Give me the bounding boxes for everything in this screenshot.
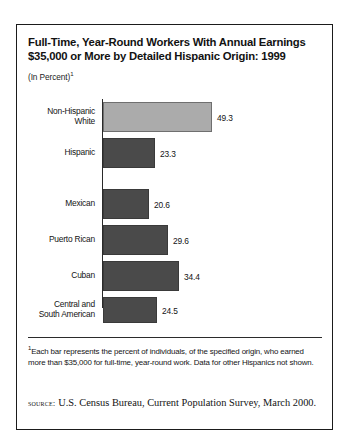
bar-row: Central and South American 24.5 [17,297,332,323]
bar-category-label: Cuban [17,271,95,281]
bar-value-label: 34.4 [184,272,200,282]
bar-chart-plot-area: Non-Hispanic White 49.3 Hispanic 23.3 Me… [17,99,332,311]
bar-row: Non-Hispanic White 49.3 [17,102,332,132]
footnote-divider [28,337,322,338]
footnote: 1Each bar represents the percent of indi… [28,347,318,368]
bar-puerto-rican [103,225,168,255]
footnote-text: Each bar represents the percent of indiv… [28,347,313,367]
source-label: source: [28,398,56,408]
bar-value-label: 23.3 [160,149,176,159]
bar-category-label-line1: Hispanic [64,147,95,157]
bar-row: Puerto Rican 29.6 [17,225,332,255]
bar-hispanic [103,138,155,168]
bar-row: Hispanic 23.3 [17,138,332,168]
page-title: Full-Time, Year-Round Workers With Annua… [28,35,322,63]
bar-category-label: Hispanic [17,148,95,158]
bar-row: Cuban 34.4 [17,261,332,291]
chart-subtitle-footnote-marker: 1 [70,72,73,78]
bar-category-label-line1: Non-Hispanic [47,106,95,116]
bar-category-label: Mexican [17,199,95,209]
title-block: Full-Time, Year-Round Workers With Annua… [28,35,322,82]
bar-mexican [103,189,149,219]
bar-non-hispanic-white [103,102,212,132]
bar-category-label-line1: Puerto Rican [49,234,95,244]
source-note: source: U.S. Census Bureau, Current Popu… [28,396,320,410]
bar-category-label: Central and South American [17,300,95,320]
bar-category-label-line1: Cuban [71,270,95,280]
chart-subtitle: (In Percent)1 [28,72,322,82]
source-text: U.S. Census Bureau, Current Population S… [58,397,316,408]
bar-category-label-line2: White [75,116,95,126]
bar-category-label-line1: Mexican [65,198,95,208]
bar-cuban [103,261,179,291]
figure-frame: Full-Time, Year-Round Workers With Annua… [16,24,333,430]
bar-value-label: 24.5 [162,306,178,316]
bar-central-and-south-american [103,297,157,323]
bar-category-label-line1: Central and [54,299,95,309]
bar-category-label-line2: South American [39,309,95,319]
bar-value-label: 29.6 [173,236,189,246]
bar-value-label: 20.6 [154,200,170,210]
bar-value-label: 49.3 [217,113,233,123]
bar-category-label: Puerto Rican [17,235,95,245]
bar-row: Mexican 20.6 [17,189,332,219]
chart-subtitle-text: (In Percent) [28,72,70,82]
bar-category-label: Non-Hispanic White [17,107,95,127]
